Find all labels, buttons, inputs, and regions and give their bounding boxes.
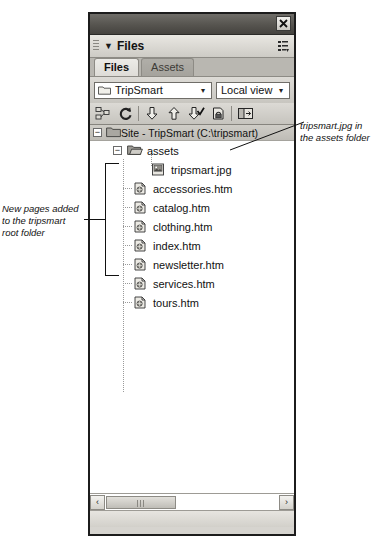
check-out-icon[interactable] — [185, 104, 207, 123]
open-folder-icon — [127, 144, 142, 157]
close-glyph — [279, 19, 288, 28]
tree-guide-line — [123, 264, 133, 265]
scrollbar-grip-icon — [137, 500, 145, 507]
annotation-left-bracket-bottom — [105, 275, 119, 276]
tree-row-tours[interactable]: tours.htm — [90, 293, 294, 312]
connect-glyph — [95, 106, 111, 121]
up-arrow-glyph — [167, 106, 181, 121]
refresh-glyph — [118, 106, 133, 121]
chevron-down-icon[interactable]: ▾ — [196, 83, 210, 98]
assets-expander[interactable]: − — [113, 146, 122, 155]
connect-to-remote-host-icon[interactable] — [92, 104, 114, 123]
tree-label-catalog: catalog.htm — [153, 202, 210, 214]
panel-statusbar — [90, 510, 294, 527]
tree-label-services: services.htm — [153, 278, 215, 290]
tree-guide-line — [123, 226, 133, 227]
panel-titlebar[interactable] — [90, 14, 294, 35]
html-file-glyph — [133, 182, 147, 195]
check-in-icon[interactable] — [207, 104, 229, 123]
tree-guide-line — [123, 302, 133, 303]
site-root-expander[interactable]: − — [93, 128, 102, 137]
html-file-icon — [133, 258, 148, 271]
tree-row-clothing[interactable]: clothing.htm — [90, 217, 294, 236]
view-select-value: Local view — [221, 84, 272, 96]
get-files-icon[interactable] — [141, 104, 163, 123]
folder-glyph — [106, 126, 121, 138]
check-out-glyph — [188, 106, 205, 121]
site-select[interactable]: TripSmart ▾ — [94, 82, 212, 99]
drag-gripper-icon[interactable] — [93, 40, 99, 52]
collapse-triangle-icon[interactable]: ▼ — [104, 42, 113, 51]
scroll-right-icon[interactable]: › — [279, 495, 294, 510]
folder-icon — [106, 126, 121, 139]
tree-row-services[interactable]: services.htm — [90, 274, 294, 293]
html-file-icon — [133, 296, 148, 309]
tree-label-index: index.htm — [153, 240, 201, 252]
tree-row-accessories[interactable]: accessories.htm — [90, 179, 294, 198]
lock-file-glyph — [211, 106, 226, 121]
view-select[interactable]: Local view ▾ — [216, 82, 290, 99]
html-file-icon — [133, 277, 148, 290]
html-file-glyph — [133, 239, 147, 252]
chevron-down-icon[interactable]: ▾ — [274, 83, 288, 98]
annotation-right-leader — [228, 118, 306, 154]
annotation-right: tripsmart.jpg in the assets folder — [300, 120, 374, 144]
close-icon[interactable] — [276, 16, 291, 31]
tree-label-tripsmart-jpg: tripsmart.jpg — [171, 164, 232, 176]
scroll-left-icon[interactable]: ‹ — [90, 495, 105, 510]
files-panel: ▼ Files Files Assets TripSm — [88, 12, 296, 536]
tree-label-tours: tours.htm — [153, 297, 199, 309]
tree-label-accessories: accessories.htm — [153, 183, 232, 195]
tree-row-tripsmart-jpg[interactable]: tripsmart.jpg — [90, 160, 294, 179]
html-file-glyph — [133, 258, 147, 271]
panel-tabs: Files Assets — [90, 58, 294, 77]
annotation-left-bracket — [105, 163, 106, 276]
panel-menu-glyph — [276, 39, 290, 53]
file-tree: − assets tripsmart.jpg — [90, 141, 294, 493]
tree-guide-line — [123, 188, 133, 189]
html-file-icon — [133, 201, 148, 214]
tab-files[interactable]: Files — [94, 58, 139, 76]
put-files-icon[interactable] — [163, 104, 185, 123]
scrollbar-track[interactable] — [105, 495, 279, 510]
tree-row-newsletter[interactable]: newsletter.htm — [90, 255, 294, 274]
folder-icon — [98, 85, 111, 95]
tree-label-assets: assets — [147, 145, 179, 157]
image-file-icon — [151, 163, 166, 176]
tab-assets[interactable]: Assets — [141, 58, 194, 76]
toolbar-divider — [138, 106, 139, 121]
panel-header[interactable]: ▼ Files — [90, 35, 294, 58]
tree-guide-line — [123, 283, 133, 284]
html-file-glyph — [133, 220, 147, 233]
tree-guide-line — [123, 245, 133, 246]
annotation-left-bracket-top — [105, 163, 119, 164]
html-file-glyph — [133, 296, 147, 309]
image-file-glyph — [151, 163, 165, 176]
folder-glyph — [98, 85, 111, 95]
refresh-icon[interactable] — [114, 104, 136, 123]
tree-row-index[interactable]: index.htm — [90, 236, 294, 255]
selector-row: TripSmart ▾ Local view ▾ — [90, 77, 294, 103]
html-file-icon — [133, 239, 148, 252]
annotation-left: New pages added to the tripsmart root fo… — [2, 203, 82, 239]
panel-title: Files — [117, 39, 144, 53]
tree-row-catalog[interactable]: catalog.htm — [90, 198, 294, 217]
open-folder-glyph — [127, 144, 143, 156]
html-file-glyph — [133, 201, 147, 214]
down-arrow-glyph — [145, 106, 159, 121]
html-file-icon — [133, 220, 148, 233]
site-select-value: TripSmart — [115, 84, 163, 96]
html-file-glyph — [133, 277, 147, 290]
tree-label-newsletter: newsletter.htm — [153, 259, 224, 271]
tree-label-clothing: clothing.htm — [153, 221, 212, 233]
scrollbar-thumb[interactable] — [106, 496, 176, 509]
panel-menu-icon[interactable] — [276, 39, 290, 53]
html-file-icon — [133, 182, 148, 195]
horizontal-scrollbar[interactable]: ‹ › — [90, 493, 294, 510]
tree-guide-line — [123, 207, 133, 208]
annotation-left-leader — [84, 219, 106, 220]
